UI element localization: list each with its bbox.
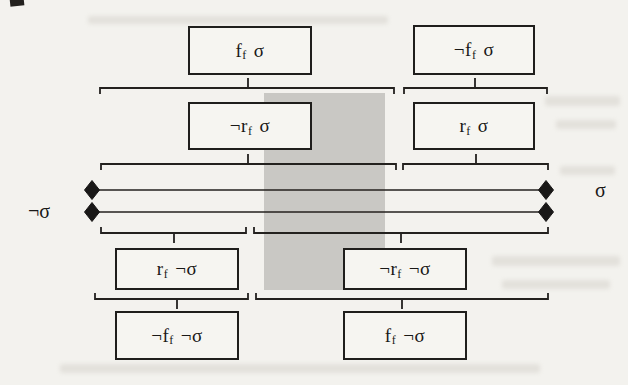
diamond-endpoint-bottom-right: [539, 203, 554, 222]
bracket-mid-left: [101, 155, 396, 169]
diamond-endpoint-top-left: [85, 181, 100, 200]
diamond-endpoint-bottom-left: [85, 203, 100, 222]
bracket-top-right: [404, 79, 547, 93]
bracket-mid-right: [403, 155, 548, 169]
figure-canvas: ffσ ¬ffσ ¬rfσ rfσ rf¬σ ¬rf¬σ ¬ff¬σ ff¬σ …: [0, 0, 628, 385]
bracket-lower-left: [101, 228, 246, 242]
bracket-top-left: [100, 79, 394, 93]
left-endpoint-label: ¬σ: [28, 200, 50, 223]
diagram-linework: [0, 0, 628, 385]
bracket-bottom-right: [256, 294, 548, 308]
diamond-endpoint-top-right: [539, 181, 554, 200]
bracket-lower-right: [254, 228, 548, 242]
right-endpoint-label: σ: [595, 179, 606, 202]
bracket-bottom-left: [95, 294, 248, 308]
